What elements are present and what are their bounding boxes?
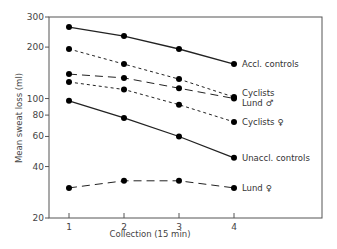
data-point — [231, 96, 237, 102]
data-point — [121, 86, 127, 92]
series-line — [69, 181, 234, 188]
series-line — [69, 74, 234, 98]
y-tick-label: 100 — [27, 94, 44, 104]
series-label: Cyclists — [242, 88, 275, 98]
data-point — [121, 115, 127, 121]
data-point — [121, 75, 127, 81]
data-point — [231, 155, 237, 161]
data-point — [176, 76, 182, 82]
data-point — [66, 71, 72, 77]
data-point — [176, 102, 182, 108]
data-point — [66, 185, 72, 191]
y-tick-label: 20 — [33, 213, 45, 223]
series-line — [69, 101, 234, 158]
data-point — [176, 178, 182, 184]
x-tick-label: 1 — [66, 222, 72, 232]
data-point — [231, 61, 237, 67]
x-axis-label: Collection (15 min) — [110, 229, 191, 239]
y-tick-label: 300 — [27, 12, 44, 22]
data-point — [231, 185, 237, 191]
x-tick-label: 4 — [231, 222, 237, 232]
data-point — [66, 46, 72, 52]
data-point — [176, 85, 182, 91]
series-line — [69, 82, 234, 122]
data-point — [66, 98, 72, 104]
y-tick-label: 80 — [33, 110, 45, 120]
y-tick-label: 200 — [27, 42, 44, 52]
data-point — [121, 33, 127, 39]
series-label: Lund ♂ — [242, 98, 273, 108]
series-line — [69, 27, 234, 64]
series-label: Lund ♀ — [242, 183, 272, 193]
data-point — [231, 119, 237, 125]
y-axis-ticks: 20406080100200300 — [27, 12, 49, 223]
data-series: Accl. controlsCyclistsLund ♂Cyclists ♀Un… — [66, 24, 310, 193]
data-point — [176, 46, 182, 52]
y-tick-label: 60 — [33, 131, 45, 141]
series-line — [69, 49, 234, 97]
y-axis-label: Mean sweat loss (ml) — [14, 73, 24, 163]
sweat-loss-chart: 20406080100200300 1234 Accl. controlsCyc… — [0, 0, 337, 249]
data-point — [66, 24, 72, 30]
series-label: Unaccl. controls — [242, 153, 310, 163]
series-0: Accl. controls — [66, 24, 299, 69]
series-5: Lund ♀ — [66, 178, 272, 193]
data-point — [176, 133, 182, 139]
series-label: Accl. controls — [242, 59, 299, 69]
data-point — [66, 79, 72, 85]
data-point — [121, 61, 127, 67]
series-label: Cyclists ♀ — [242, 117, 283, 127]
y-tick-label: 40 — [33, 162, 45, 172]
data-point — [121, 178, 127, 184]
series-1: Cyclists — [66, 46, 275, 100]
